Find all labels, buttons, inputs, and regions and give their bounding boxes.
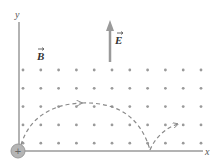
field-dot [200,124,203,127]
field-dot [93,105,96,108]
field-dot [146,124,149,127]
field-dot [75,87,78,90]
field-dot [182,124,185,127]
field-dot [22,87,25,90]
y-axis-label: y [14,9,20,20]
field-dot [93,142,96,145]
field-dot [164,124,167,127]
field-dot [111,87,114,90]
field-dot [39,142,42,145]
field-dot [128,124,131,127]
field-dot [200,69,203,72]
field-dot [111,142,114,145]
field-dot [57,142,60,145]
positive-charge: + [11,144,25,158]
field-dot [200,105,203,108]
x-axis-label: x [204,146,210,157]
field-dot [75,124,78,127]
axes: y x [14,9,210,157]
field-dot [182,87,185,90]
field-dot [146,105,149,108]
field-dot [57,69,60,72]
field-dot [93,87,96,90]
charge-sign: + [15,145,21,157]
b-vector-label: B [36,50,44,62]
field-dot [111,69,114,72]
magnetic-field-label: B [36,48,44,63]
charge-trajectory [21,103,178,150]
field-dot [146,87,149,90]
field-dot [200,142,203,145]
field-dot [22,69,25,72]
field-dot [128,69,131,72]
e-vector-label: E [114,34,122,46]
field-dot [164,142,167,145]
field-dot [164,87,167,90]
field-dot [111,124,114,127]
field-dot [39,69,42,72]
field-dot [57,124,60,127]
field-dot [128,142,131,145]
field-dot [22,105,25,108]
field-dot [75,105,78,108]
field-dot [182,69,185,72]
field-dot [146,69,149,72]
field-dot [128,87,131,90]
field-dot [75,69,78,72]
field-dot [39,87,42,90]
field-dot [93,124,96,127]
field-dot [164,105,167,108]
field-dot [182,142,185,145]
field-dot [164,69,167,72]
field-dot [39,105,42,108]
field-dot [39,124,42,127]
electric-field-arrow: E [106,20,123,62]
field-dot [22,124,25,127]
field-dot [200,87,203,90]
field-dot [128,105,131,108]
diagram-canvas: y x B E + [0,0,222,164]
field-dot [75,142,78,145]
field-dot [57,87,60,90]
field-dot [93,69,96,72]
field-dot [182,105,185,108]
